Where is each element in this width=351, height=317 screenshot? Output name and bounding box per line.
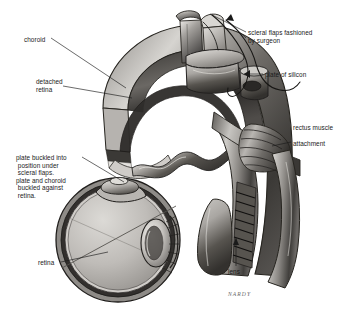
label-plate-buckled-into-position: plate buckled into position under sclera… <box>16 154 67 200</box>
globe-lens-core <box>145 226 163 260</box>
scleral-flap-left <box>176 11 201 21</box>
silicone-plate-front <box>186 63 240 93</box>
suture-ribbing-column <box>233 182 256 268</box>
detached-retina-fold <box>132 146 237 178</box>
lower-globe-cross-section <box>56 177 180 302</box>
label-lens: lens <box>228 268 240 276</box>
label-detached-retina: detached retina <box>36 78 63 93</box>
label-attachment: attachment <box>293 140 325 148</box>
label-choroid: choroid <box>24 36 45 44</box>
label-rectus-muscle: rectus muscle <box>293 124 333 132</box>
plate-side-block-top <box>240 66 268 76</box>
arch-lower-foot <box>198 199 232 275</box>
artist-signature: NARDY <box>228 291 251 297</box>
medical-illustration-figure: choroid detached retina scleral flaps fa… <box>0 0 351 317</box>
label-retina: retina <box>38 259 54 267</box>
arrowhead-scleral-flap <box>226 14 234 21</box>
label-scleral-flaps: scleral flaps fashioned by surgeon <box>248 29 312 44</box>
label-plate-of-silicon: plate of silicon <box>265 71 306 79</box>
buckle-plate-cap <box>110 177 128 184</box>
